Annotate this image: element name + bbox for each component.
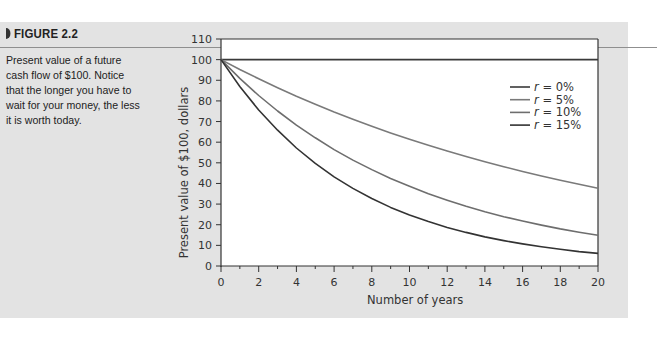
- y-tick-label: 80: [198, 95, 212, 108]
- y-tick-label: 10: [198, 239, 212, 252]
- plot-area: [221, 39, 598, 266]
- y-tick-label: 30: [198, 198, 212, 211]
- x-tick-label: 6: [331, 276, 338, 289]
- x-tick-label: 0: [218, 276, 225, 289]
- y-tick-label: 100: [191, 54, 212, 67]
- y-tick-label: 60: [198, 136, 212, 149]
- legend-label-3: r = 15%: [534, 118, 581, 132]
- chart: 0102030405060708090100110024681012141618…: [0, 0, 657, 338]
- y-tick-label: 40: [198, 177, 212, 190]
- y-tick-label: 70: [198, 116, 212, 129]
- x-tick-label: 18: [553, 276, 567, 289]
- y-tick-label: 90: [198, 74, 212, 87]
- y-tick-label: 0: [205, 260, 212, 273]
- x-tick-label: 12: [440, 276, 454, 289]
- y-tick-label: 110: [191, 33, 212, 46]
- x-tick-label: 4: [293, 276, 300, 289]
- x-tick-label: 10: [403, 276, 417, 289]
- x-tick-label: 16: [516, 276, 530, 289]
- x-axis-label: Number of years: [367, 293, 463, 307]
- x-tick-label: 14: [478, 276, 492, 289]
- y-axis-label: Present value of $100, dollars: [177, 87, 191, 259]
- y-tick-label: 50: [198, 157, 212, 170]
- x-tick-label: 20: [591, 276, 605, 289]
- x-tick-label: 8: [368, 276, 375, 289]
- x-tick-label: 2: [255, 276, 262, 289]
- y-tick-label: 20: [198, 219, 212, 232]
